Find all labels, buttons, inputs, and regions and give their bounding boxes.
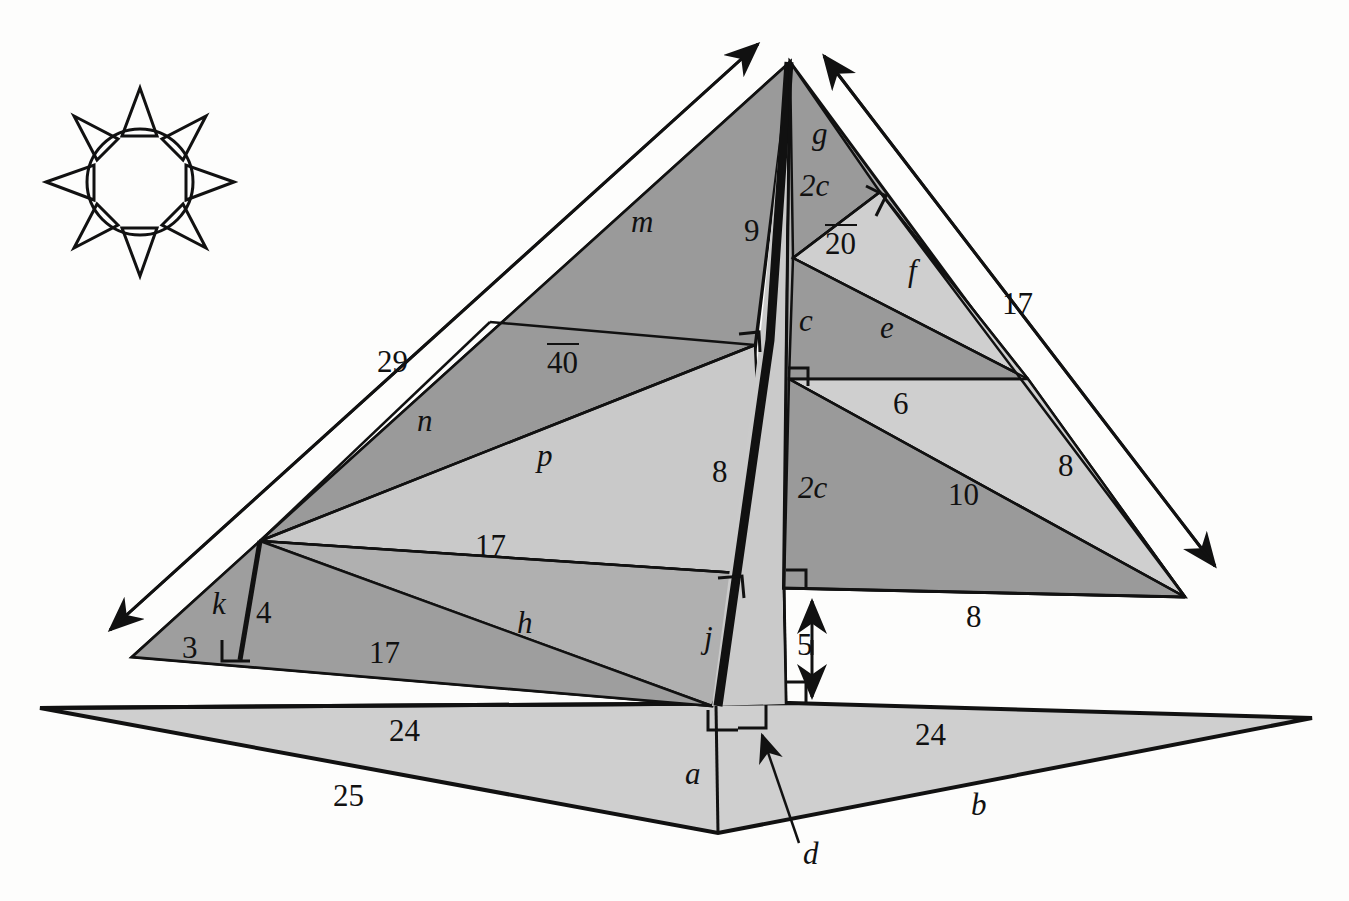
label-b: b	[971, 789, 987, 820]
label-e: e	[880, 312, 894, 343]
label-17-upper: 17	[475, 530, 506, 561]
base-ground-quad	[40, 703, 1312, 833]
geometry-figure: m n p k h j 40 3 4 17 17 9 8 g f e 2c c …	[0, 0, 1349, 901]
label-sqrt40: 40	[548, 347, 579, 378]
label-h: h	[517, 607, 533, 638]
label-3: 3	[182, 632, 198, 663]
left-face-group	[132, 62, 790, 706]
label-g: g	[812, 118, 828, 149]
base-quad-shape	[40, 703, 1312, 833]
radicand-20: 20	[825, 224, 857, 261]
right-face-group	[782, 62, 1185, 704]
label-k: k	[212, 588, 226, 619]
label-10: 10	[948, 479, 979, 510]
label-8-front: 8	[712, 456, 728, 487]
label-5: 5	[797, 629, 813, 660]
label-sqrt20: 20	[826, 228, 857, 259]
right-angle-mark-5	[786, 682, 806, 703]
label-24-right: 24	[915, 719, 946, 750]
label-c: c	[799, 305, 813, 336]
label-25: 25	[333, 780, 364, 811]
label-9: 9	[744, 215, 760, 246]
label-d: d	[803, 838, 819, 869]
label-n: n	[417, 405, 433, 436]
label-6: 6	[893, 388, 909, 419]
label-17-lower: 17	[369, 637, 400, 668]
label-17-right: 17	[1002, 288, 1033, 319]
label-p: p	[537, 440, 553, 471]
label-24-left: 24	[389, 715, 420, 746]
label-a: a	[685, 758, 701, 789]
sun-circle	[87, 129, 193, 235]
label-m: m	[631, 206, 653, 237]
pyramid-diagram-svg	[0, 0, 1349, 901]
label-4: 4	[256, 597, 272, 628]
label-f: f	[908, 255, 917, 286]
label-2c-lower: 2c	[798, 472, 827, 503]
label-8-slant: 8	[1058, 450, 1074, 481]
sun-icon	[46, 88, 234, 276]
label-2c-upper: 2c	[800, 170, 829, 201]
label-8-base: 8	[966, 601, 982, 632]
base-divider-line	[716, 705, 718, 833]
label-j: j	[704, 622, 713, 653]
label-29: 29	[377, 346, 408, 377]
radicand-40: 40	[547, 343, 579, 380]
